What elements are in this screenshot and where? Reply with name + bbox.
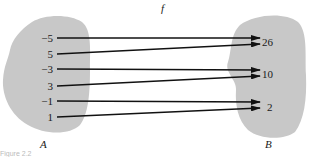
set-b-label: B bbox=[265, 138, 272, 150]
domain-element: −5 bbox=[41, 32, 53, 44]
mapping-arrow bbox=[57, 108, 260, 117]
set-a-label: A bbox=[39, 138, 47, 150]
function-diagram: −5 5 −3 3 −1 1 26 10 2 A B f bbox=[0, 0, 311, 157]
codomain-element: 10 bbox=[262, 68, 274, 80]
function-label: f bbox=[161, 2, 166, 14]
codomain-element: 2 bbox=[267, 101, 273, 113]
domain-element: 1 bbox=[48, 111, 54, 123]
domain-element: −1 bbox=[41, 95, 53, 107]
mapping-arrow bbox=[57, 101, 260, 102]
domain-element: 5 bbox=[48, 48, 54, 60]
mapping-arrow bbox=[57, 69, 260, 70]
codomain-element: 26 bbox=[262, 36, 274, 48]
domain-element: 3 bbox=[48, 80, 54, 92]
domain-element: −3 bbox=[41, 63, 53, 75]
figure-caption: Figure 2.2 bbox=[0, 150, 32, 157]
